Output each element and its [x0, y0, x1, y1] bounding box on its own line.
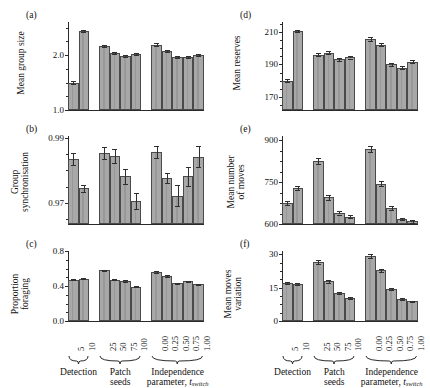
error-bar-cap: [134, 209, 139, 210]
error-bar-cap: [379, 181, 384, 182]
error-bar-cap: [134, 193, 139, 194]
panel-d-ytick-minor: [280, 48, 282, 49]
error-bar-cap: [165, 277, 170, 278]
panel-e-plot: 600750900: [282, 136, 418, 224]
error-bar: [84, 185, 85, 192]
error-bar-cap: [186, 56, 191, 57]
error-bar-cap: [326, 195, 331, 196]
bar: [68, 83, 79, 111]
panel-f-ytick-label: 30: [269, 249, 278, 259]
panel-e-ytick-minor: [280, 172, 282, 173]
panel-e-ylabel: Mean number of moves: [227, 134, 247, 230]
error-bar-cap: [196, 56, 201, 57]
panel-c-x-axis: [68, 321, 204, 322]
panel-c-ytick-minor: [66, 269, 68, 270]
group-brace: [282, 356, 303, 365]
panel-f-ytick-label: 0: [274, 316, 279, 326]
bar: [282, 283, 293, 321]
panel-f-ytick: [279, 254, 282, 255]
bar: [193, 55, 204, 110]
panel-a-ytick-label: 2.0: [53, 50, 64, 60]
error-bar-cap: [348, 218, 353, 219]
bar: [99, 46, 110, 110]
error-bar-cap: [134, 55, 139, 56]
error-bar: [167, 173, 168, 183]
panel-d-ytick-minor: [280, 56, 282, 57]
bar: [407, 301, 418, 321]
error-bar-cap: [123, 184, 128, 185]
panel-f-plot: 01530: [282, 251, 418, 321]
bar: [397, 68, 408, 110]
error-bar-cap: [316, 56, 321, 57]
error-bar-cap: [410, 63, 415, 64]
error-bar-cap: [102, 271, 107, 272]
error-bar-cap: [379, 43, 384, 44]
xtick-label: 10: [87, 342, 97, 351]
error-bar-cap: [123, 57, 128, 58]
panel-c-ylabel-line2: foraging: [20, 278, 30, 310]
panel-d-ytick: [279, 64, 282, 65]
error-bar-cap: [316, 164, 321, 165]
error-bar-cap: [316, 264, 321, 265]
group-brace: [68, 356, 89, 365]
error-bar-cap: [400, 66, 405, 67]
bar: [120, 281, 131, 321]
error-bar-cap: [175, 206, 180, 207]
error-bar-cap: [337, 292, 342, 293]
error-bar-cap: [175, 185, 180, 186]
group-brace: [151, 356, 204, 365]
group-name: Independenceparameter, tswitch: [124, 367, 232, 388]
error-bar-cap: [285, 205, 290, 206]
panel-e-ytick-label: 900: [265, 135, 279, 145]
xtick-label: 0.25: [170, 336, 180, 351]
error-bar: [178, 185, 179, 207]
xtick-label: 0.75: [405, 336, 415, 351]
error-bar-cap: [81, 32, 86, 33]
error-bar-cap: [337, 215, 342, 216]
panel-d-x-axis: [282, 110, 418, 111]
panel-e-ytick-label: 600: [265, 219, 279, 229]
error-bar-cap: [81, 185, 86, 186]
group-name-line2: parameter, tswitch: [147, 377, 209, 387]
bar: [386, 289, 397, 321]
bar: [386, 64, 397, 110]
bar: [131, 54, 142, 110]
bar: [397, 299, 408, 321]
error-bar-cap: [123, 55, 128, 56]
error-bar-cap: [400, 218, 405, 219]
error-bar-cap: [112, 149, 117, 150]
error-bar-cap: [71, 81, 76, 82]
panel-b-ytick: [65, 138, 68, 139]
error-bar-cap: [337, 294, 342, 295]
error-bar-cap: [326, 280, 331, 281]
bar: [110, 280, 121, 321]
bar: [313, 262, 324, 321]
error-bar-cap: [368, 146, 373, 147]
error-bar: [115, 149, 116, 163]
error-bar-cap: [295, 283, 300, 284]
bar: [407, 62, 418, 110]
error-bar-cap: [112, 54, 117, 55]
error-bar-cap: [348, 299, 353, 300]
panel-f-ylabel-line1: Mean moves: [223, 270, 233, 319]
error-bar-cap: [196, 146, 201, 147]
bar: [313, 161, 324, 224]
error-bar-cap: [326, 54, 331, 55]
error-bar-cap: [368, 152, 373, 153]
error-bar-cap: [123, 282, 128, 283]
group-name-line1: Independence: [151, 367, 204, 377]
panel-b-ytick-label: 0.99: [48, 133, 64, 143]
panel-b-ylabel: Group synchronisation: [11, 134, 31, 230]
error-bar-cap: [81, 30, 86, 31]
bar: [162, 276, 173, 321]
bar: [162, 178, 173, 224]
error-bar-cap: [71, 153, 76, 154]
panel-a-letter: (a): [26, 10, 37, 20]
panel-a-x-axis: [68, 110, 204, 111]
bar: [293, 188, 304, 224]
error-bar-cap: [389, 63, 394, 64]
xtick-label: 0.25: [384, 336, 394, 351]
error-bar-cap: [154, 273, 159, 274]
xtick-label: 25: [108, 342, 118, 351]
error-bar-cap: [285, 79, 290, 80]
